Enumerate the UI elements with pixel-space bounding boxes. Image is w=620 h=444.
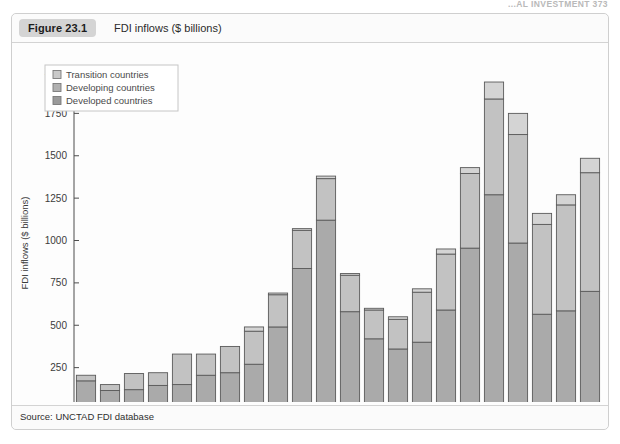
bar-segment[interactable]	[148, 385, 167, 402]
bar-segment[interactable]	[364, 308, 383, 310]
bar-segment[interactable]	[556, 195, 575, 205]
figure-number-badge: Figure 23.1	[19, 19, 96, 37]
bar-segment[interactable]	[508, 243, 527, 402]
bar-segment[interactable]	[460, 248, 479, 402]
bar-stack[interactable]	[364, 308, 383, 402]
bar-segment[interactable]	[532, 213, 551, 224]
bar-segment[interactable]	[172, 354, 191, 385]
bar-segment[interactable]	[172, 385, 191, 402]
bar-segment[interactable]	[244, 331, 263, 364]
bar-segment[interactable]	[244, 327, 263, 331]
legend-swatch	[53, 97, 61, 105]
bar-segment[interactable]	[580, 291, 599, 402]
y-axis-tick-label: 750	[50, 277, 67, 288]
bar-segment[interactable]	[268, 293, 287, 295]
bar-segment[interactable]	[316, 220, 335, 402]
bar-segment[interactable]	[124, 390, 143, 402]
bar-stack[interactable]	[388, 317, 407, 402]
bar-stack[interactable]	[268, 293, 287, 402]
bar-segment[interactable]	[508, 135, 527, 243]
bar-segment[interactable]	[508, 113, 527, 134]
legend-label: Developing countries	[66, 82, 155, 93]
bar-segment[interactable]	[340, 275, 359, 311]
y-axis-tick-label: 1000	[45, 235, 68, 246]
bar-segment[interactable]	[268, 327, 287, 402]
bar-stack[interactable]	[196, 354, 215, 402]
bar-segment[interactable]	[436, 249, 455, 254]
bar-segment[interactable]	[148, 373, 167, 386]
bar-stack[interactable]	[532, 213, 551, 402]
y-axis-title: FDI inflows ($ billions)	[19, 197, 30, 290]
bar-segment[interactable]	[460, 174, 479, 249]
bar-stack[interactable]	[76, 375, 95, 402]
chart-legend: Transition countriesDeveloping countries…	[45, 65, 178, 111]
bar-segment[interactable]	[412, 292, 431, 342]
bar-segment[interactable]	[388, 349, 407, 402]
bar-segment[interactable]	[124, 374, 143, 390]
bar-segment[interactable]	[364, 339, 383, 402]
y-axis-tick-label: 250	[50, 362, 67, 373]
y-axis-tick-label: 500	[50, 320, 67, 331]
bar-segment[interactable]	[268, 295, 287, 327]
bar-segment[interactable]	[196, 375, 215, 402]
bar-segment[interactable]	[364, 310, 383, 339]
bar-segment[interactable]	[484, 195, 503, 402]
bar-stack[interactable]	[292, 229, 311, 402]
bar-segment[interactable]	[220, 346, 239, 372]
legend-label: Developed countries	[66, 95, 153, 106]
bar-segment[interactable]	[196, 354, 215, 375]
bar-stack[interactable]	[244, 327, 263, 402]
bar-stack[interactable]	[172, 354, 191, 402]
bar-stack[interactable]	[124, 374, 143, 402]
chart-plot-area: 025050075010001250150017502000 199019921…	[12, 43, 610, 402]
source-note: Source: UNCTAD FDI database	[20, 411, 154, 422]
bar-segment[interactable]	[460, 168, 479, 174]
bar-segment[interactable]	[388, 317, 407, 320]
bar-segment[interactable]	[412, 289, 431, 292]
bar-segment[interactable]	[292, 230, 311, 268]
page-running-header: ...AL INVESTMENT 373	[508, 0, 608, 10]
bar-segment[interactable]	[316, 179, 335, 221]
bar-segment[interactable]	[292, 229, 311, 231]
bar-stack[interactable]	[220, 346, 239, 402]
bar-segment[interactable]	[580, 173, 599, 292]
bar-segment[interactable]	[556, 311, 575, 402]
figure-caption-bar: Figure 23.1 FDI inflows ($ billions)	[12, 14, 608, 43]
bar-stack[interactable]	[484, 82, 503, 402]
bar-segment[interactable]	[292, 268, 311, 402]
bar-segment[interactable]	[340, 274, 359, 276]
bar-stack[interactable]	[556, 195, 575, 402]
bar-segment[interactable]	[484, 99, 503, 195]
bar-segment[interactable]	[100, 391, 119, 402]
bar-stack[interactable]	[436, 249, 455, 402]
bar-segment[interactable]	[580, 158, 599, 172]
bar-segment[interactable]	[532, 224, 551, 314]
bar-segment[interactable]	[556, 205, 575, 311]
bar-segment[interactable]	[340, 312, 359, 402]
bar-stack[interactable]	[580, 158, 599, 402]
bar-stack[interactable]	[460, 168, 479, 402]
figure-container: Figure 23.1 FDI inflows ($ billions) 025…	[11, 13, 609, 430]
bar-segment[interactable]	[388, 319, 407, 349]
bar-segment[interactable]	[244, 364, 263, 402]
bar-series-group	[76, 82, 599, 402]
y-axis-tick-label: 1250	[45, 193, 68, 204]
bar-segment[interactable]	[412, 342, 431, 402]
bar-stack[interactable]	[316, 176, 335, 402]
bar-stack[interactable]	[340, 274, 359, 402]
bar-stack[interactable]	[100, 385, 119, 402]
bar-stack[interactable]	[412, 289, 431, 402]
bar-segment[interactable]	[484, 82, 503, 99]
bar-stack[interactable]	[508, 113, 527, 402]
bar-segment[interactable]	[532, 314, 551, 402]
bar-segment[interactable]	[436, 310, 455, 402]
fdi-inflows-stacked-bar-chart: 025050075010001250150017502000 199019921…	[12, 43, 610, 402]
bar-segment[interactable]	[436, 254, 455, 310]
bar-segment[interactable]	[100, 385, 119, 391]
legend-swatch	[53, 84, 61, 92]
bar-stack[interactable]	[148, 373, 167, 402]
bar-segment[interactable]	[76, 381, 95, 402]
bar-segment[interactable]	[76, 375, 95, 381]
bar-segment[interactable]	[220, 373, 239, 402]
bar-segment[interactable]	[316, 176, 335, 179]
